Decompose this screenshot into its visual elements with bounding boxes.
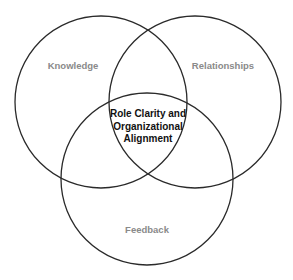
center-label-line-2: Organizational: [110, 121, 186, 134]
label-feedback: Feedback: [125, 224, 169, 235]
circle-knowledge: [15, 16, 187, 188]
center-label-line-1: Role Clarity and: [110, 108, 186, 121]
center-label-line-3: Alignment: [110, 133, 186, 146]
label-center-intersection: Role Clarity and Organizational Alignmen…: [110, 108, 186, 146]
label-relationships: Relationships: [192, 60, 254, 71]
circle-relationships: [109, 16, 281, 188]
label-knowledge: Knowledge: [48, 60, 99, 71]
